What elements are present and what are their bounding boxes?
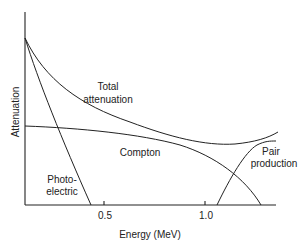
x-axis-label: Energy (MeV) <box>119 229 181 240</box>
photoelectric-label-line1: Photo- <box>47 174 76 185</box>
pair-label-line1: Pair <box>262 146 280 157</box>
x-tick-label-1.0: 1.0 <box>199 210 213 221</box>
x-tick-label-0.5: 0.5 <box>98 210 112 221</box>
photoelectric-label-line2: electric <box>46 186 78 197</box>
compton-label: Compton <box>120 147 161 158</box>
attenuation-chart: Attenuation Energy (MeV) 0.5 1.0 Total a… <box>0 0 306 249</box>
pair-label-line2: production <box>251 158 298 169</box>
y-axis-label: Attenuation <box>10 87 21 138</box>
total-label-line2: attenuation <box>83 94 133 105</box>
total-label-line1: Total <box>97 81 118 92</box>
